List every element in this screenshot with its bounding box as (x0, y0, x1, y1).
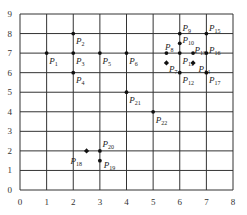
point-label-p3: P3 (75, 56, 85, 67)
point-marker-p4 (71, 71, 75, 75)
point-label-p2: P2 (75, 36, 85, 47)
point-marker-p15 (204, 32, 208, 36)
point-label-p22: P22 (155, 115, 168, 126)
point-marker-p17 (204, 71, 208, 75)
y-tick-label: 5 (8, 87, 13, 97)
y-tick-label: 0 (8, 185, 13, 195)
x-tick-label: 8 (231, 197, 236, 207)
point-label-p12: P12 (181, 75, 194, 86)
point-marker-p18 (84, 148, 89, 153)
point-marker-p21 (125, 90, 129, 94)
point-label-p4: P4 (75, 75, 85, 86)
scatter-chart: 0123456780123456789 P1P2P3P4P5P6P7P8P9P1… (0, 0, 247, 215)
point-label-p7: P7 (168, 64, 178, 75)
point-marker-p6 (125, 51, 129, 55)
data-points: P1P2P3P4P5P6P7P8P9P10P11P12P13P14P15P16P… (45, 23, 221, 171)
point-marker-p9 (178, 32, 182, 36)
x-tick-label: 2 (71, 197, 76, 207)
point-label-p21: P21 (128, 95, 141, 106)
point-marker-p12 (178, 71, 182, 75)
point-marker-p10 (178, 41, 182, 45)
point-label-p17: P17 (208, 75, 221, 86)
x-tick-label: 7 (204, 197, 209, 207)
y-tick-label: 4 (8, 107, 13, 117)
x-tick-label: 3 (98, 197, 103, 207)
point-label-p16: P16 (208, 45, 221, 56)
point-label-p6: P6 (128, 56, 138, 67)
point-marker-p19 (98, 159, 102, 163)
point-label-p10: P10 (181, 35, 194, 46)
point-label-p9: P9 (181, 23, 191, 34)
x-tick-label: 5 (151, 197, 156, 207)
y-tick-label: 9 (8, 9, 13, 19)
y-tick-label: 1 (8, 165, 13, 175)
y-tick-label: 8 (8, 29, 13, 39)
y-tick-label: 3 (8, 126, 13, 136)
y-tick-label: 2 (8, 146, 13, 156)
point-label-p5: P5 (102, 56, 112, 67)
point-label-p1: P1 (48, 56, 58, 67)
point-marker-p16 (204, 51, 208, 55)
point-label-p20: P20 (102, 139, 115, 150)
y-tick-label: 7 (8, 48, 13, 58)
point-marker-p1 (45, 51, 49, 55)
x-tick-label: 6 (178, 197, 183, 207)
grid-lines (20, 14, 233, 190)
point-label-p11: P11 (181, 56, 193, 67)
x-tick-label: 4 (124, 197, 129, 207)
point-marker-p20 (98, 149, 102, 153)
point-marker-p2 (71, 32, 75, 36)
axis-tick-labels: 0123456780123456789 (8, 9, 236, 207)
point-marker-p5 (98, 51, 102, 55)
point-marker-p3 (71, 51, 75, 55)
y-tick-label: 6 (8, 68, 13, 78)
point-marker-p11 (178, 51, 182, 55)
point-marker-p22 (151, 110, 155, 114)
x-tick-label: 1 (44, 197, 49, 207)
point-label-p19: P19 (103, 160, 116, 171)
point-label-p15: P15 (208, 23, 221, 34)
point-label-p13: P13 (193, 45, 206, 56)
x-tick-label: 0 (18, 197, 23, 207)
point-label-p18: P18 (70, 156, 83, 167)
point-label-p8: P8 (164, 42, 174, 53)
